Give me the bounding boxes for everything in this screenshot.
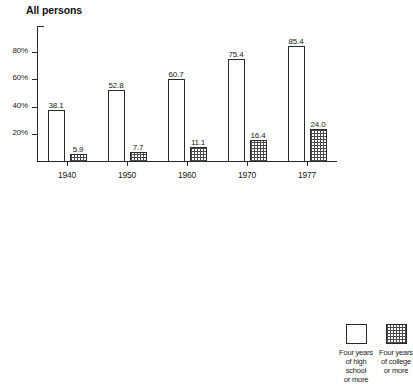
legend-label-line: or more (384, 366, 408, 375)
bar-college: 7.7 (130, 152, 147, 162)
bar-value-label: 5.9 (73, 145, 84, 154)
y-axis-tick: 60% (32, 79, 38, 80)
x-axis-tick-label: 1970 (238, 170, 256, 180)
bar-value-label: 85.4 (289, 37, 304, 46)
bar-value-label: 60.7 (169, 70, 184, 79)
bar-value-label: 38.1 (49, 101, 64, 110)
plot-area-all-persons: 20%40%60%80% 19401950196019701977 38.15.… (37, 26, 337, 162)
legend-entry-college: Four yearsof collegeor more (379, 324, 413, 375)
y-axis-line (37, 26, 38, 162)
chart-title-all-persons: All persons (26, 4, 82, 16)
x-axis-tick (67, 162, 68, 166)
legend-label-line: Four years (379, 348, 413, 357)
legend-label-line: Four years (339, 348, 373, 357)
y-axis-tick: 80% (32, 52, 38, 53)
legend-label-high-school: Four yearsof high schoolor more (339, 348, 373, 384)
bar-value-label: 16.4 (251, 131, 266, 140)
x-axis-tick-label: 1960 (178, 170, 196, 180)
bar-value-label: 75.4 (229, 50, 244, 59)
bar-high-school: 85.4 (288, 46, 305, 162)
bar-value-label: 7.7 (133, 143, 144, 152)
y-axis-tick-label: 60% (13, 73, 28, 82)
bar-college: 16.4 (250, 140, 267, 162)
legend-label-line: of high school (345, 357, 366, 375)
legend-entry-high-school: Four yearsof high schoolor more (339, 324, 373, 384)
x-axis-tick-label: 1977 (298, 170, 316, 180)
bar-value-label: 11.1 (191, 138, 205, 147)
x-axis-tick-label: 1940 (58, 170, 76, 180)
legend-label-college: Four yearsof collegeor more (379, 348, 413, 375)
y-axis-tick-label: 40% (13, 101, 28, 110)
x-axis-tick-label: 1950 (118, 170, 136, 180)
legend-label-line: or more (344, 375, 368, 384)
x-axis-tick (127, 162, 128, 166)
x-axis-tick (307, 162, 308, 166)
legend-swatch-high-school (346, 324, 367, 344)
y-axis-tick: 40% (32, 107, 38, 108)
chart-panel-all-persons: All persons 20%40%60%80% 194019501960197… (0, 0, 413, 196)
bar-high-school: 75.4 (228, 59, 245, 162)
bar-high-school: 38.1 (48, 110, 65, 162)
bar-college: 24.0 (310, 129, 327, 162)
bar-high-school: 60.7 (168, 79, 185, 162)
y-axis-tick-label: 20% (13, 128, 28, 137)
chart-legend: Four yearsof high schoolor more Four yea… (339, 324, 413, 392)
y-axis-tick-label: 80% (13, 46, 28, 55)
bar-value-label: 24.0 (311, 120, 326, 129)
x-axis-tick (247, 162, 248, 166)
y-axis-cap (37, 26, 44, 27)
bar-value-label: 52.8 (109, 81, 124, 90)
bar-college: 5.9 (70, 154, 87, 162)
bar-high-school: 52.8 (108, 90, 125, 162)
legend-swatch-college (386, 324, 407, 344)
x-axis-tick (187, 162, 188, 166)
bar-college: 11.1 (190, 147, 207, 162)
legend-label-line: of college (381, 357, 411, 366)
y-axis-tick: 20% (32, 134, 38, 135)
